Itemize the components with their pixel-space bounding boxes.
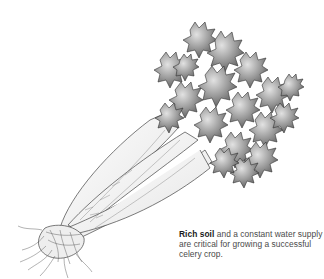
celery-base [18,225,92,278]
celery-leaves [154,22,304,188]
caption-emphasis: Rich soil [179,229,214,239]
celery-stalks [60,112,212,240]
figure-caption: Rich soil and a constant water supply ar… [179,229,324,259]
